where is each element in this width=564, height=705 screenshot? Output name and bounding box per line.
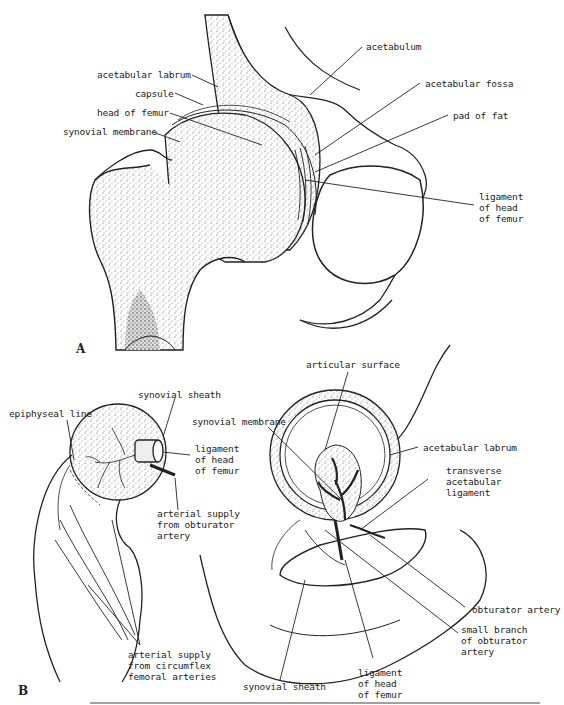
label-synovial-sheath-bottom: synovial sheath bbox=[243, 681, 326, 692]
label-pad-of-fat: pad of fat bbox=[453, 110, 508, 121]
panel-b-letter: B bbox=[18, 684, 28, 698]
panel-b-left-drawing bbox=[34, 404, 175, 682]
panel-a-drawing bbox=[90, 15, 427, 350]
label-head-of-femur: head of femur bbox=[97, 107, 169, 118]
label-synovial-sheath-top: synovial sheath bbox=[138, 389, 221, 400]
label-acetabular-labrum-b: acetabular labrum bbox=[423, 442, 517, 453]
label-transverse-acetabular-ligament: transverse acetabular ligament bbox=[446, 465, 501, 498]
label-obturator-artery: obturator artery bbox=[472, 604, 560, 615]
panel-b-right-drawing bbox=[200, 345, 486, 684]
label-acetabular-labrum: acetabular labrum bbox=[97, 69, 191, 80]
label-capsule: capsule bbox=[135, 88, 174, 99]
label-ligament-head-femur-b-left: ligament of head of femur bbox=[195, 443, 239, 476]
label-ligament-head-femur-a: ligament of head of femur bbox=[479, 191, 523, 224]
label-acetabular-fossa: acetabular fossa bbox=[425, 78, 513, 89]
label-arterial-supply-circumflex: arterial supply from circumflex femoral … bbox=[128, 649, 216, 682]
label-ligament-head-femur-b-bottom: ligament of head of femur bbox=[358, 667, 402, 700]
label-synovial-membrane-a: synovial membrane bbox=[63, 126, 157, 137]
panel-a-letter: A bbox=[76, 342, 85, 356]
label-acetabulum: acetabulum bbox=[366, 41, 421, 52]
label-small-branch-obturator: small branch of obturator artery bbox=[461, 624, 527, 657]
label-arterial-supply-obturator: arterial supply from obturator artery bbox=[157, 508, 240, 541]
label-synovial-membrane-b: synovial membrane bbox=[192, 416, 286, 427]
label-epiphyseal-line: epiphyseal line bbox=[9, 408, 92, 419]
label-articular-surface: articular surface bbox=[306, 359, 400, 370]
